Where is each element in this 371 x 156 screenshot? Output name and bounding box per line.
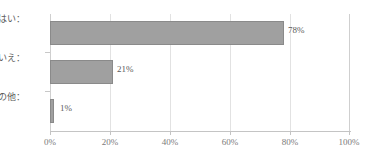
x-tick-label-100: 100% — [319, 137, 371, 148]
category-label-2: その他： — [0, 92, 25, 103]
bar-value-label-0: 78% — [288, 25, 305, 36]
x-tick-mark — [170, 131, 171, 135]
bar-2 — [50, 99, 54, 123]
bar-value-label-1: 21% — [117, 64, 134, 75]
x-tick-mark — [230, 131, 231, 135]
x-tick-mark — [349, 131, 350, 135]
bar-1 — [50, 60, 113, 84]
x-tick-mark — [50, 131, 51, 135]
x-tick-label-0: 0% — [20, 137, 80, 148]
x-tick-mark — [110, 131, 111, 135]
bar-chart-figure: はい： 78% いいえ： 21% その他： 1% 0% 20% 40% 60% … — [0, 0, 371, 156]
x-tick-label-40: 40% — [140, 137, 200, 148]
bar-row: はい： 78% — [50, 14, 350, 53]
x-tick-label-60: 60% — [200, 137, 260, 148]
category-label-0: はい： — [0, 14, 25, 25]
bar-row: いいえ： 21% — [50, 53, 350, 92]
x-tick-label-80: 80% — [260, 137, 320, 148]
x-tick-label-20: 20% — [80, 137, 140, 148]
plot-area: はい： 78% いいえ： 21% その他： 1% — [50, 14, 350, 131]
chart-title — [6, 0, 206, 3]
x-axis-line — [50, 131, 351, 132]
bar-value-label-2: 1% — [60, 103, 72, 114]
category-label-1: いいえ： — [0, 53, 25, 64]
x-tick-mark — [290, 131, 291, 135]
bar-row: その他： 1% — [50, 92, 350, 131]
bar-0 — [50, 21, 284, 45]
